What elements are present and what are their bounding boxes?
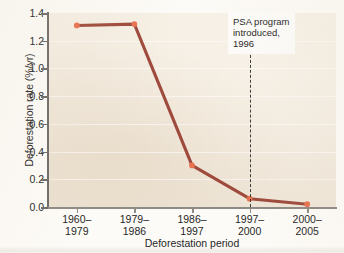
y-axis-tick-labels: 0.00.20.40.60.81.01.21.4 xyxy=(20,8,44,208)
data-point-marker xyxy=(132,21,138,27)
x-tick-label: 2000–2005 xyxy=(272,214,342,237)
y-tick-mark xyxy=(41,207,48,209)
data-point-marker xyxy=(74,23,80,29)
y-tick-mark xyxy=(41,13,48,15)
x-axis-title: Deforestation period xyxy=(48,237,336,249)
annotation-line: introduced, xyxy=(233,27,290,38)
x-tick-label-line: 2005 xyxy=(272,226,342,238)
figure-deforestation-rate: Deforestation rate (%/yr) 0.00.20.40.60.… xyxy=(0,0,344,253)
annotation-line: 1996 xyxy=(233,38,290,49)
x-tick-mark xyxy=(77,207,79,213)
data-point-marker xyxy=(189,163,195,169)
annotation-dashed-rule xyxy=(250,50,251,207)
y-tick-mark xyxy=(41,124,48,126)
y-tick-mark xyxy=(41,68,48,70)
x-tick-mark xyxy=(134,207,136,213)
annotation-psa-program: PSA programintroduced,1996 xyxy=(228,13,295,54)
annotation-line: PSA program xyxy=(233,16,290,27)
y-tick-mark xyxy=(41,152,48,154)
y-tick-mark xyxy=(41,179,48,181)
y-tick-mark xyxy=(41,41,48,43)
x-tick-mark xyxy=(307,207,309,213)
y-tick-mark xyxy=(41,96,48,98)
x-tick-label-line: 2000– xyxy=(272,214,342,226)
x-tick-mark xyxy=(192,207,194,213)
x-tick-mark xyxy=(250,207,252,213)
